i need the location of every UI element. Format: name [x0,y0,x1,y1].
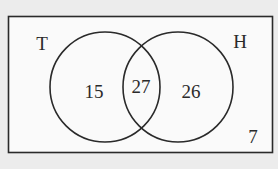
set-t-label: T [36,34,48,53]
set-h-label: H [233,32,247,51]
t-only-value: 15 [85,82,104,101]
intersection-value: 27 [132,77,151,96]
outside-value: 7 [248,127,258,146]
h-only-value: 26 [182,82,201,101]
